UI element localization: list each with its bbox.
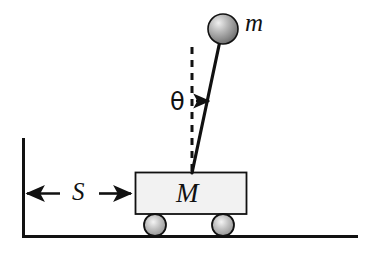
angle-label: θ bbox=[170, 90, 185, 114]
physics-diagram-inverted-pendulum-cart: m M S θ bbox=[0, 0, 382, 256]
pendulum-rod bbox=[192, 43, 220, 173]
cart-wheel-left bbox=[144, 214, 166, 236]
pendulum-bob bbox=[208, 14, 238, 44]
cart-wheel-right bbox=[212, 214, 234, 236]
pendulum-bob-label: m bbox=[245, 10, 263, 35]
cart-mass-label: M bbox=[176, 180, 199, 207]
diagram-canvas bbox=[0, 0, 382, 256]
displacement-label: S bbox=[72, 179, 85, 204]
